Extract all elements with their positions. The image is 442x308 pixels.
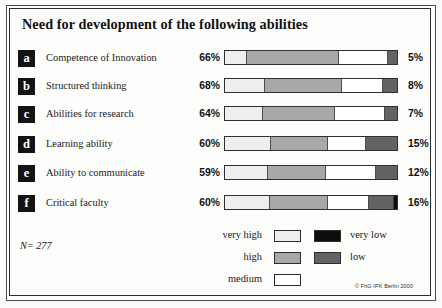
bar-segment-vhigh [225, 51, 247, 64]
row-label: Ability to communicate [46, 167, 145, 178]
bar-segment-low [383, 79, 397, 92]
legend-label-left: very high [186, 229, 262, 240]
bar-segment-vlow [394, 196, 397, 209]
legend-label-right: very low [350, 229, 387, 240]
legend-label-left: high [186, 251, 262, 262]
row-left-percent: 68% [186, 80, 220, 91]
bar-segment-high [268, 166, 326, 179]
sample-size-note: N= 277 [20, 240, 52, 251]
row-tag-a: a [18, 50, 35, 67]
bar-segment-low [369, 196, 393, 209]
row-label: Critical faculty [46, 197, 109, 208]
copyright-note: © FhG IPK Berlin 2000 [355, 283, 413, 289]
bar-segment-medium [342, 79, 383, 92]
row-left-percent: 60% [186, 138, 220, 149]
bar-segment-vhigh [225, 79, 265, 92]
bar-segment-high [247, 51, 338, 64]
row-right-percent: 8% [408, 80, 438, 91]
chart-row: eAbility to communicate59%12% [0, 164, 442, 188]
stacked-bar [224, 78, 398, 93]
legend-row: very highvery low [186, 228, 424, 246]
row-left-percent: 64% [186, 108, 220, 119]
row-label: Learning ability [46, 138, 113, 149]
row-tag-d: d [18, 136, 35, 153]
row-left-percent: 60% [186, 197, 220, 208]
legend-label-left: medium [186, 273, 262, 284]
bar-segment-low [385, 107, 397, 120]
chart-row: aCompetence of Innovation66%5% [0, 49, 442, 73]
bar-segment-high [271, 137, 328, 150]
stacked-bar [224, 195, 398, 210]
bar-segment-low [388, 51, 397, 64]
chart-page: Need for development of the following ab… [0, 0, 442, 308]
legend-swatch-high [274, 252, 301, 264]
chart-row: fCritical faculty60%16% [0, 194, 442, 218]
legend-swatch-low [314, 252, 341, 264]
row-tag-e: e [18, 165, 35, 182]
row-right-percent: 7% [408, 108, 438, 119]
row-label: Structured thinking [46, 80, 127, 91]
row-tag-f: f [18, 195, 35, 212]
stacked-bar [224, 165, 398, 180]
bar-segment-high [265, 79, 342, 92]
row-left-percent: 59% [186, 167, 220, 178]
stacked-bar [224, 50, 398, 65]
row-left-percent: 66% [186, 52, 220, 63]
bar-segment-medium [335, 107, 385, 120]
row-tag-c: c [18, 106, 35, 123]
stacked-bar [224, 106, 398, 121]
row-label: Abilities for research [46, 108, 134, 119]
bar-segment-medium [328, 137, 366, 150]
bar-segment-high [270, 196, 328, 209]
bar-segment-vhigh [225, 166, 268, 179]
row-tag-b: b [18, 78, 35, 95]
legend-swatch-vlow [314, 230, 341, 242]
chart-row: cAbilities for research64%7% [0, 105, 442, 129]
row-right-percent: 16% [408, 197, 438, 208]
row-label: Competence of Innovation [46, 52, 157, 63]
legend-swatch-vhigh [274, 230, 301, 242]
stacked-bar [224, 136, 398, 151]
chart-row: dLearning ability60%15% [0, 135, 442, 159]
bar-segment-vhigh [225, 137, 271, 150]
row-right-percent: 12% [408, 167, 438, 178]
bar-segment-medium [328, 196, 369, 209]
row-right-percent: 5% [408, 52, 438, 63]
bar-segment-medium [326, 166, 376, 179]
row-right-percent: 15% [408, 138, 438, 149]
legend-row: highlow [186, 250, 424, 268]
chart-row: bStructured thinking68%8% [0, 77, 442, 101]
bar-segment-medium [339, 51, 389, 64]
bar-segment-low [376, 166, 397, 179]
legend-swatch-medium [274, 274, 301, 286]
legend-label-right: low [350, 251, 366, 262]
bar-segment-high [263, 107, 335, 120]
bar-segment-low [366, 137, 397, 150]
bar-segment-vhigh [225, 196, 270, 209]
bar-segment-vhigh [225, 107, 263, 120]
chart-legend: very highvery lowhighlowmedium [186, 228, 424, 290]
